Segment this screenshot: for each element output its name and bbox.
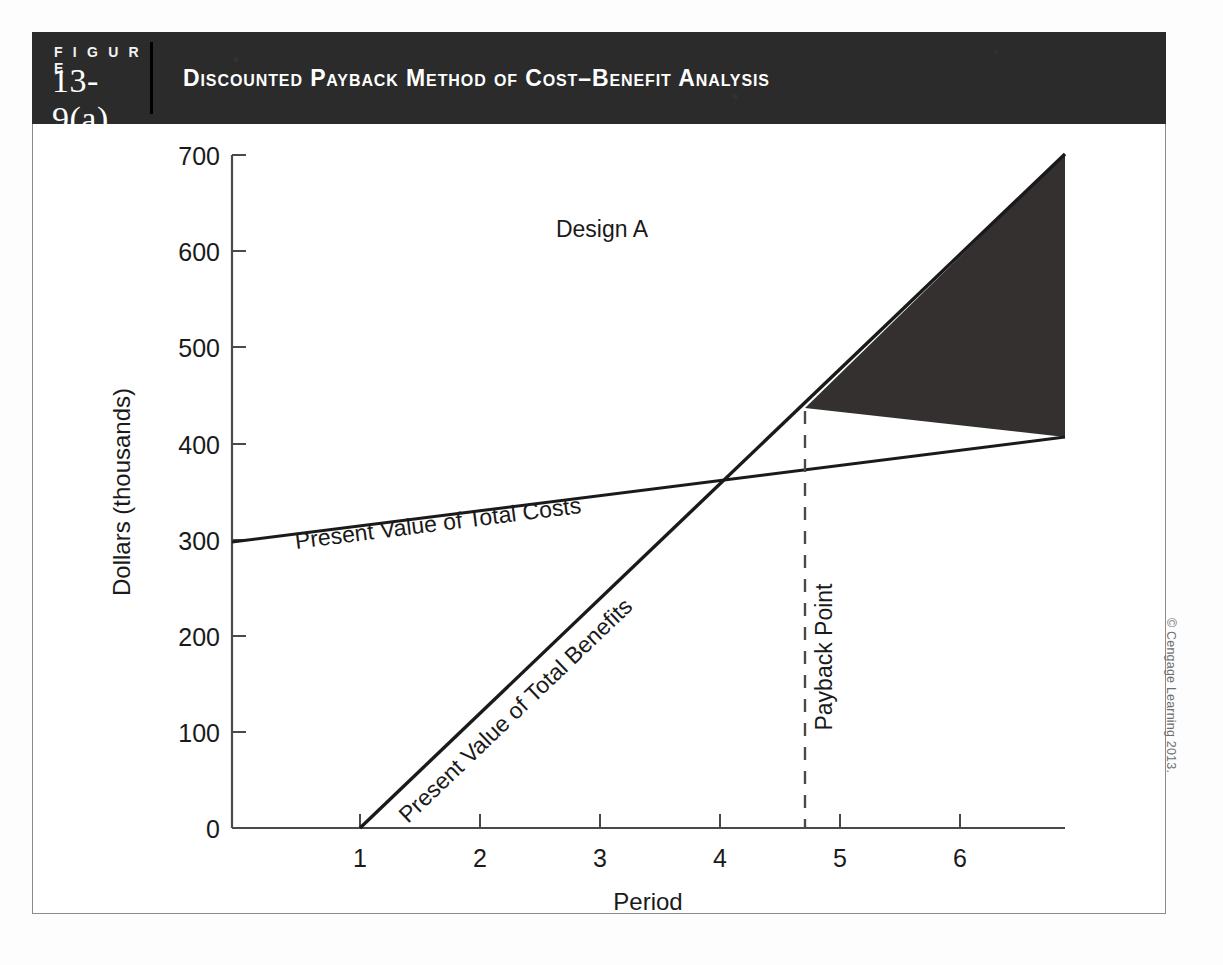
x-tick-label-6: 6 [953, 844, 967, 872]
figure-number-block: F I G U R E 13-9(a) [32, 32, 150, 124]
design-a-label: Design A [556, 216, 649, 242]
y-axis-title: Dollars (thousands) [108, 388, 135, 596]
benefits-line [360, 154, 1065, 828]
x-tick-label-5: 5 [833, 844, 847, 872]
x-tick-label-2: 2 [473, 844, 487, 872]
y-tick-label-0: 0 [206, 815, 220, 843]
y-tick-label-100: 100 [178, 719, 220, 747]
y-tick-label-300: 300 [178, 527, 220, 555]
y-tick-label-700: 700 [178, 142, 220, 170]
x-tick-label-1: 1 [353, 844, 367, 872]
figure-page: F I G U R E 13-9(a) Discounted Payback M… [0, 0, 1223, 965]
x-axis-title: Period [613, 888, 682, 914]
payback-point-label: Payback Point [811, 583, 837, 731]
y-tick-label-200: 200 [178, 623, 220, 651]
benefits-line-label: Present Value of Total Benefits [393, 593, 637, 828]
x-axis-ticks [360, 814, 960, 828]
x-tick-label-3: 3 [593, 844, 607, 872]
chart-plot: 700 600 500 400 300 200 100 0 1 2 3 4 5 … [32, 124, 1166, 914]
copyright-credit: © Cengage Learning 2013. [1164, 618, 1178, 773]
y-tick-label-500: 500 [178, 334, 220, 362]
figure-header-bar: F I G U R E 13-9(a) Discounted Payback M… [32, 32, 1166, 124]
y-tick-label-400: 400 [178, 431, 220, 459]
figure-title: Discounted Payback Method of Cost–Benefi… [153, 32, 1166, 124]
x-tick-label-4: 4 [713, 844, 727, 872]
costs-line-label: Present Value of Total Costs [293, 492, 582, 554]
net-benefit-shaded-area [805, 154, 1065, 437]
y-tick-label-600: 600 [178, 238, 220, 266]
y-axis-ticks [232, 155, 246, 732]
